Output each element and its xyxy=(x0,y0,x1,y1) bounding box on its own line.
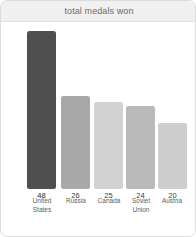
bar[interactable] xyxy=(158,123,187,189)
bar[interactable] xyxy=(126,106,155,189)
chart-header: total medals won xyxy=(1,1,196,22)
chart-title: total medals won xyxy=(1,1,196,21)
category-label: Austria xyxy=(149,197,195,206)
plot-area: 48 26 25 24 20 United States Russia Cana… xyxy=(1,22,196,237)
bar[interactable] xyxy=(61,96,90,189)
bar[interactable] xyxy=(94,102,123,189)
bar[interactable] xyxy=(27,31,56,189)
chart-card: total medals won 48 26 25 24 20 United xyxy=(0,0,196,237)
